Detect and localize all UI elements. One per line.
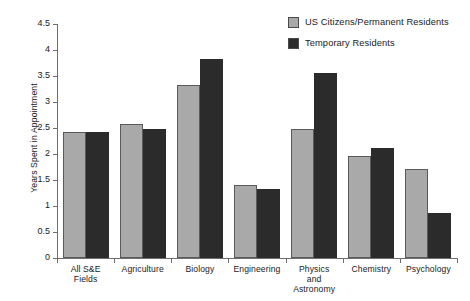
x-category-label: Engineering bbox=[228, 264, 285, 274]
y-tick: 1.5 bbox=[53, 180, 57, 181]
x-tick bbox=[171, 258, 172, 263]
y-tick-label: 2.5 bbox=[37, 122, 50, 132]
y-axis-line bbox=[57, 24, 58, 258]
x-tick bbox=[457, 258, 458, 263]
x-category-label-line: Astronomy bbox=[286, 284, 343, 294]
y-tick-label: 4 bbox=[45, 44, 50, 54]
x-category-label: Psychology bbox=[400, 264, 457, 274]
bar bbox=[234, 185, 257, 258]
y-tick: 4.5 bbox=[53, 24, 57, 25]
bar-group bbox=[177, 24, 223, 258]
bar bbox=[177, 85, 200, 258]
y-tick: 3.5 bbox=[53, 76, 57, 77]
bar-group bbox=[291, 24, 337, 258]
x-tick bbox=[57, 258, 58, 263]
bar bbox=[120, 124, 143, 258]
x-category-label-line: Agriculture bbox=[114, 264, 171, 274]
bar bbox=[405, 169, 428, 258]
bar bbox=[291, 129, 314, 258]
y-tick: 2 bbox=[53, 154, 57, 155]
plot-area: 00.511.522.533.544.5 All S&EFieldsAgricu… bbox=[57, 24, 457, 258]
x-category-label: Chemistry bbox=[343, 264, 400, 274]
bar-group bbox=[120, 24, 166, 258]
x-tick bbox=[228, 258, 229, 263]
x-category-label: All S&EFields bbox=[57, 264, 114, 284]
bar bbox=[348, 156, 371, 258]
bar-group bbox=[234, 24, 280, 258]
bar bbox=[257, 189, 280, 258]
x-tick bbox=[286, 258, 287, 263]
bar-group bbox=[405, 24, 451, 258]
y-tick-label: 4.5 bbox=[37, 18, 50, 28]
y-tick-label: 0.5 bbox=[37, 226, 50, 236]
bar bbox=[86, 132, 109, 258]
x-category-label-line: Psychology bbox=[400, 264, 457, 274]
x-category-label-line: Engineering bbox=[228, 264, 285, 274]
y-tick-label: 1.5 bbox=[37, 174, 50, 184]
y-axis-title: Years Spent in Appointment bbox=[29, 33, 39, 243]
y-tick: 2.5 bbox=[53, 128, 57, 129]
x-axis-line bbox=[57, 258, 457, 259]
y-tick: 3 bbox=[53, 102, 57, 103]
bar bbox=[428, 213, 451, 258]
bar bbox=[371, 148, 394, 258]
y-tick: 0.5 bbox=[53, 232, 57, 233]
x-tick bbox=[400, 258, 401, 263]
bar bbox=[63, 132, 86, 258]
y-tick-label: 0 bbox=[45, 252, 50, 262]
x-category-label: PhysicsandAstronomy bbox=[286, 264, 343, 294]
x-tick bbox=[114, 258, 115, 263]
y-tick: 4 bbox=[53, 50, 57, 51]
x-category-label-line: and bbox=[286, 274, 343, 284]
x-category-label-line: Physics bbox=[286, 264, 343, 274]
x-tick bbox=[343, 258, 344, 263]
y-tick-label: 1 bbox=[45, 200, 50, 210]
bar-group bbox=[348, 24, 394, 258]
x-category-label-line: Fields bbox=[57, 274, 114, 284]
x-category-label: Biology bbox=[171, 264, 228, 274]
y-tick-label: 2 bbox=[45, 148, 50, 158]
y-tick-label: 3 bbox=[45, 96, 50, 106]
x-category-label-line: Biology bbox=[171, 264, 228, 274]
x-category-label: Agriculture bbox=[114, 264, 171, 274]
y-tick: 1 bbox=[53, 206, 57, 207]
bar-chart: US Citizens/Permanent Residents Temporar… bbox=[0, 0, 470, 301]
bar-group bbox=[63, 24, 109, 258]
bar bbox=[143, 129, 166, 258]
bar bbox=[314, 73, 337, 258]
x-category-label-line: All S&E bbox=[57, 264, 114, 274]
y-tick-label: 3.5 bbox=[37, 70, 50, 80]
bar bbox=[200, 59, 223, 258]
x-category-label-line: Chemistry bbox=[343, 264, 400, 274]
